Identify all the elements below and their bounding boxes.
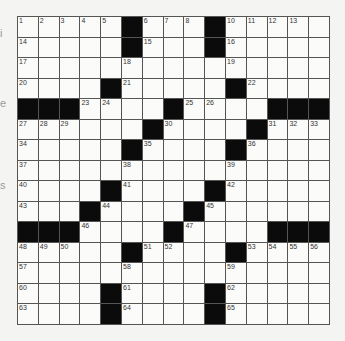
grid-cell[interactable] (309, 284, 329, 304)
grid-cell[interactable]: 11 (247, 17, 267, 37)
grid-cell[interactable]: 62 (226, 284, 246, 304)
grid-cell[interactable] (80, 243, 100, 263)
grid-cell[interactable]: 47 (184, 222, 204, 242)
grid-cell[interactable] (247, 222, 267, 242)
grid-cell[interactable] (268, 140, 288, 160)
grid-cell[interactable]: 7 (164, 17, 184, 37)
grid-cell[interactable] (268, 263, 288, 283)
grid-cell[interactable]: 24 (101, 99, 121, 119)
grid-cell[interactable] (80, 263, 100, 283)
grid-cell[interactable] (101, 120, 121, 140)
grid-cell[interactable] (60, 284, 80, 304)
grid-cell[interactable]: 53 (247, 243, 267, 263)
grid-cell[interactable] (122, 202, 142, 222)
grid-cell[interactable] (226, 99, 246, 119)
grid-cell[interactable] (80, 140, 100, 160)
grid-cell[interactable] (309, 202, 329, 222)
grid-cell[interactable] (288, 38, 308, 58)
grid-cell[interactable] (60, 202, 80, 222)
grid-cell[interactable] (101, 222, 121, 242)
grid-cell[interactable] (143, 222, 163, 242)
grid-cell[interactable] (205, 58, 225, 78)
grid-cell[interactable] (268, 304, 288, 324)
grid-cell[interactable]: 36 (247, 140, 267, 160)
grid-cell[interactable]: 4 (80, 17, 100, 37)
grid-cell[interactable] (164, 161, 184, 181)
grid-cell[interactable]: 1 (18, 17, 38, 37)
grid-cell[interactable]: 65 (226, 304, 246, 324)
grid-cell[interactable] (143, 304, 163, 324)
grid-cell[interactable] (184, 38, 204, 58)
grid-cell[interactable] (205, 120, 225, 140)
grid-cell[interactable] (164, 38, 184, 58)
grid-cell[interactable]: 20 (18, 79, 38, 99)
grid-cell[interactable] (268, 79, 288, 99)
grid-cell[interactable]: 59 (226, 263, 246, 283)
grid-cell[interactable] (309, 58, 329, 78)
grid-cell[interactable] (247, 161, 267, 181)
grid-cell[interactable] (309, 140, 329, 160)
grid-cell[interactable] (205, 161, 225, 181)
grid-cell[interactable]: 37 (18, 161, 38, 181)
grid-cell[interactable]: 52 (164, 243, 184, 263)
grid-cell[interactable] (164, 79, 184, 99)
grid-cell[interactable] (288, 161, 308, 181)
grid-cell[interactable] (39, 140, 59, 160)
grid-cell[interactable] (122, 222, 142, 242)
grid-cell[interactable]: 17 (18, 58, 38, 78)
grid-cell[interactable] (122, 99, 142, 119)
grid-cell[interactable] (226, 120, 246, 140)
grid-cell[interactable] (184, 304, 204, 324)
grid-cell[interactable] (268, 284, 288, 304)
grid-cell[interactable] (288, 79, 308, 99)
grid-cell[interactable] (164, 58, 184, 78)
grid-cell[interactable]: 12 (268, 17, 288, 37)
grid-cell[interactable] (226, 222, 246, 242)
grid-cell[interactable] (184, 284, 204, 304)
grid-cell[interactable]: 30 (164, 120, 184, 140)
grid-cell[interactable] (184, 181, 204, 201)
grid-cell[interactable] (184, 243, 204, 263)
grid-cell[interactable]: 38 (122, 161, 142, 181)
grid-cell[interactable] (143, 79, 163, 99)
grid-cell[interactable] (101, 263, 121, 283)
grid-cell[interactable] (309, 17, 329, 37)
grid-cell[interactable] (80, 284, 100, 304)
grid-cell[interactable]: 18 (122, 58, 142, 78)
grid-cell[interactable] (39, 304, 59, 324)
grid-cell[interactable] (288, 181, 308, 201)
grid-cell[interactable] (164, 304, 184, 324)
grid-cell[interactable]: 57 (18, 263, 38, 283)
grid-cell[interactable]: 54 (268, 243, 288, 263)
grid-cell[interactable] (205, 263, 225, 283)
grid-cell[interactable] (101, 243, 121, 263)
grid-cell[interactable] (101, 161, 121, 181)
grid-cell[interactable] (60, 140, 80, 160)
grid-cell[interactable]: 39 (226, 161, 246, 181)
grid-cell[interactable] (309, 38, 329, 58)
grid-cell[interactable] (184, 161, 204, 181)
grid-cell[interactable]: 49 (39, 243, 59, 263)
grid-cell[interactable]: 46 (80, 222, 100, 242)
grid-cell[interactable]: 34 (18, 140, 38, 160)
grid-cell[interactable] (101, 140, 121, 160)
grid-cell[interactable] (288, 140, 308, 160)
grid-cell[interactable]: 45 (205, 202, 225, 222)
grid-cell[interactable]: 60 (18, 284, 38, 304)
grid-cell[interactable]: 6 (143, 17, 163, 37)
grid-cell[interactable]: 14 (18, 38, 38, 58)
grid-cell[interactable] (80, 120, 100, 140)
grid-cell[interactable] (247, 181, 267, 201)
grid-cell[interactable] (247, 202, 267, 222)
grid-cell[interactable] (39, 202, 59, 222)
grid-cell[interactable] (143, 202, 163, 222)
grid-cell[interactable]: 42 (226, 181, 246, 201)
grid-cell[interactable] (205, 222, 225, 242)
grid-cell[interactable] (101, 58, 121, 78)
grid-cell[interactable] (184, 140, 204, 160)
grid-cell[interactable] (39, 284, 59, 304)
grid-cell[interactable]: 64 (122, 304, 142, 324)
grid-cell[interactable]: 63 (18, 304, 38, 324)
grid-cell[interactable] (288, 202, 308, 222)
grid-cell[interactable]: 8 (184, 17, 204, 37)
